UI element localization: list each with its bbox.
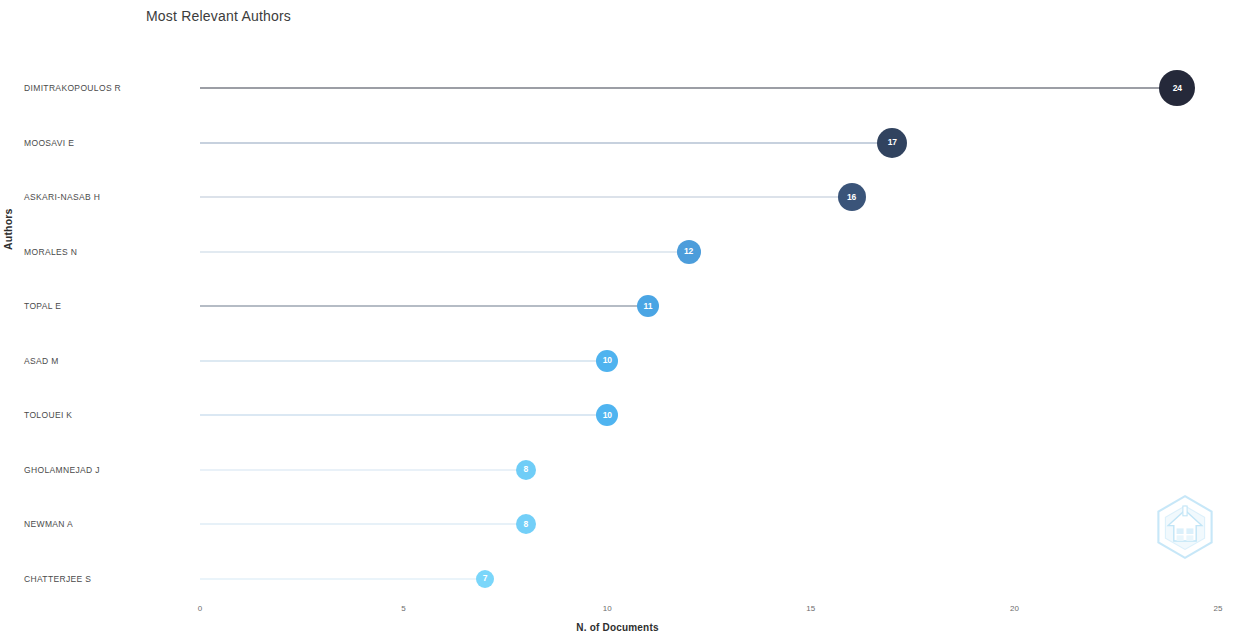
lollipop-stem <box>200 469 518 470</box>
y-axis-category-label: MOOSAVI E <box>24 138 74 148</box>
plot-area: 24171612111010887 <box>200 60 1218 600</box>
y-axis-category-label: ASKARI-NASAB H <box>24 192 100 202</box>
most-relevant-authors-chart: Most Relevant Authors Authors 2417161211… <box>0 0 1235 641</box>
data-point-marker[interactable]: 10 <box>596 350 618 372</box>
y-axis-title: Authors <box>2 208 14 250</box>
data-point-marker[interactable]: 8 <box>516 514 536 534</box>
x-axis-title: N. of Documents <box>0 622 1235 633</box>
y-axis-category-label: CHATTERJEE S <box>24 574 91 584</box>
lollipop-stem <box>200 142 879 143</box>
y-axis-category-label: DIMITRAKOPOULOS R <box>24 83 121 93</box>
lollipop-stem <box>200 88 1161 89</box>
data-point-marker[interactable]: 7 <box>476 570 494 588</box>
lollipop-stem <box>200 360 598 361</box>
y-axis-category-label: TOLOUEI K <box>24 410 72 420</box>
x-axis-tick: 0 <box>198 604 202 613</box>
lollipop-stem <box>200 251 679 252</box>
lollipop-stem <box>200 415 598 416</box>
x-axis-tick: 15 <box>806 604 815 613</box>
y-axis-category-label: NEWMAN A <box>24 519 73 529</box>
x-axis-tick: 20 <box>1010 604 1019 613</box>
data-point-marker[interactable]: 24 <box>1159 70 1195 106</box>
y-axis-category-label: TOPAL E <box>24 301 61 311</box>
lollipop-stem <box>200 578 478 579</box>
y-axis-category-label: GHOLAMNEJAD J <box>24 465 100 475</box>
chart-title: Most Relevant Authors <box>146 8 291 24</box>
x-axis-tick: 10 <box>603 604 612 613</box>
data-point-marker[interactable]: 8 <box>516 460 536 480</box>
data-point-marker[interactable]: 17 <box>877 128 907 158</box>
x-axis-tick: 25 <box>1214 604 1223 613</box>
lollipop-stem <box>200 306 639 307</box>
data-point-marker[interactable]: 16 <box>838 183 866 211</box>
data-point-marker[interactable]: 10 <box>596 404 618 426</box>
data-point-marker[interactable]: 11 <box>637 295 659 317</box>
lollipop-stem <box>200 197 840 198</box>
x-axis-tick: 5 <box>401 604 405 613</box>
data-point-marker[interactable]: 12 <box>677 240 701 264</box>
y-axis-category-label: ASAD M <box>24 356 59 366</box>
y-axis-category-label: MORALES N <box>24 247 77 257</box>
lollipop-stem <box>200 524 518 525</box>
